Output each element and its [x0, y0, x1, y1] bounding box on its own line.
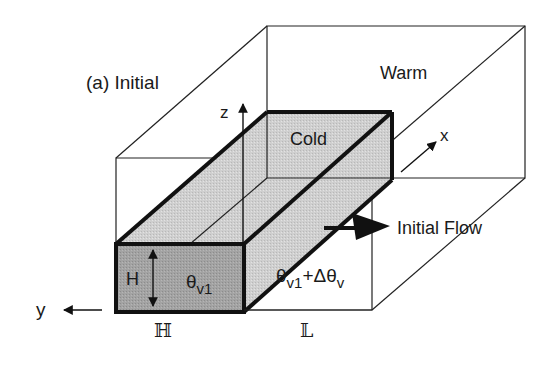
width-dimension-label: ℍ: [154, 319, 172, 341]
x-axis-label: x: [440, 126, 449, 145]
theta-warm-label: θv1+Δθv: [276, 265, 345, 291]
warm-label: Warm: [380, 63, 427, 83]
initial-flow-label: Initial Flow: [397, 218, 483, 238]
cold-label: Cold: [290, 129, 327, 149]
length-dimension-label: 𝕃: [300, 319, 313, 341]
y-axis-label: y: [36, 299, 46, 320]
cold-region-box: [116, 112, 392, 312]
height-label: H: [126, 269, 139, 289]
panel-label: (a) Initial: [86, 72, 159, 93]
y-axis: y: [36, 299, 102, 320]
z-axis-label: z: [220, 103, 229, 122]
x-axis: x: [401, 126, 449, 172]
diagram-canvas: z x y H θv1 θv1+Δθv Initial Flow Cold Wa…: [0, 0, 559, 366]
